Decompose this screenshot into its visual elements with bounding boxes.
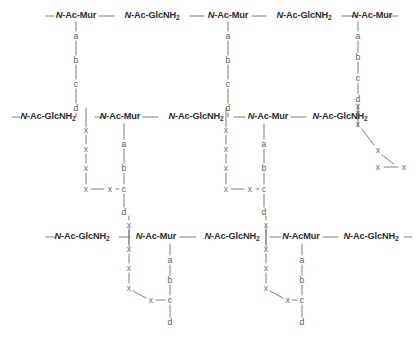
residue-stem-bot-right-1: b [300,276,305,285]
residue-stem-mid-ctr-3: d [262,208,267,217]
residue-stem-top-mid-3: d [226,104,231,113]
residue-stem-bot-left-2: c [168,296,172,305]
sugar-unit-t2: N-Ac-GlcNH2 [124,11,179,20]
residue-stem-mid-left-2: c [122,185,126,194]
sugar-unit-t5: N-Ac-Mur [352,11,393,20]
crosslink-bonds-bottom-right [270,291,297,300]
residue-stem-top-right-1: b [356,53,361,62]
residue-stem-mid-left-3: d [122,208,127,217]
residue-bridge-mid-ctr-1: x [224,145,228,154]
residue-bridge-mid-left-2: x [84,164,88,173]
sugar-unit-b4: N-AcMur [282,232,320,241]
sugar-unit-b3: N-Ac-GlcNH2 [204,232,259,241]
residue-bridge-mid-ctr-3: x [224,185,228,194]
residue-stem-mid-ctr-1: b [262,164,267,173]
residue-stem-bot-right-3: d [300,318,305,327]
crosslink-res-mid-ctr-1: x [248,185,252,194]
residue-bridge-mid-ctr-2: x [224,164,228,173]
residue-stem-mid-left-0: a [122,140,127,149]
residue-stem-mid-left-1: b [122,164,127,173]
crosslink-res-bot-left-1: x [149,296,153,305]
sugar-unit-b5: N-Ac-GlcNH2 [343,232,398,241]
residue-stem-bot-left-1: b [168,276,173,285]
sugar-unit-t3: N-Ac-Mur [208,11,249,20]
crosslink-res-bot-right-1: x [286,296,290,305]
residue-bridge-mid-left-0: x [84,126,88,135]
residue-bridge-bot-left-3: x [127,284,131,293]
residue-stem-top-right-0: a [356,32,361,41]
residue-stem-mid-ctr-0: a [262,140,267,149]
residue-stem-mid-ctr-2: c [262,185,266,194]
sugar-unit-m1: N-Ac-GlcNH2 [20,112,75,121]
residue-bridge-mid-left-3: x [84,185,88,194]
residue-stem-bot-right-2: c [300,296,304,305]
residue-bridge-bot-left-0: x [127,221,131,230]
residue-stem-top-right-2: c [356,74,360,83]
residue-stem-top-mid-1: b [226,56,231,65]
sugar-unit-b2: N-Ac-Mur [136,232,177,241]
residue-stem-top-left-1: b [74,56,79,65]
sugar-unit-m4: N-Ac-Mur [248,112,289,121]
bond-line-layer [0,0,416,340]
tail-x-3: x [402,163,406,172]
sugar-unit-m2: N-Ac-Mur [100,112,141,121]
residue-stem-top-left-3: d [74,104,79,113]
residue-bridge-bot-right-0: x [264,221,268,230]
residue-stem-top-left-0: a [74,32,79,41]
residue-stem-bot-left-0: a [168,256,173,265]
residue-bridge-bot-left-1: x [127,245,131,254]
residue-stem-bot-right-0: a [300,256,305,265]
sugar-unit-t1: N-Ac-Mur [56,11,97,20]
tail-x-2: x [376,163,380,172]
residue-bridge-bot-right-3: x [264,284,268,293]
residue-bridge-bot-right-2: x [264,264,268,273]
residue-bridge-mid-left-1: x [84,145,88,154]
residue-bridge-mid-right-1: x [356,120,360,129]
residue-stem-bot-left-3: d [168,318,173,327]
residue-stem-top-mid-2: c [226,80,230,89]
sugar-unit-b1: N-Ac-GlcNH2 [54,232,109,241]
crosslink-res-mid-left-1: x [108,185,112,194]
residue-stem-top-left-2: c [74,80,78,89]
sugar-unit-m3: N-Ac-GlcNH2 [168,112,223,121]
residue-bridge-mid-ctr-0: x [224,126,228,135]
tail-x-1: x [376,146,380,155]
residue-bridge-bot-right-1: x [264,245,268,254]
sugar-unit-t4: N-Ac-GlcNH2 [276,11,331,20]
residue-bridge-bot-left-2: x [127,264,131,273]
residue-bridge-mid-right-0: x [356,102,360,111]
residue-stem-top-mid-0: a [226,32,231,41]
peptidoglycan-diagram: N-Ac-MurN-Ac-GlcNH2N-Ac-MurN-Ac-GlcNH2N-… [0,0,416,340]
